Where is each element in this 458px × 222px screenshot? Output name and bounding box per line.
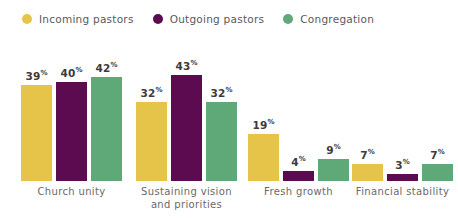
bar-rect[interactable] <box>352 164 383 181</box>
bar-slot: 7% <box>422 36 453 181</box>
bar-rect[interactable] <box>56 82 87 181</box>
bar-value-label: 3% <box>395 159 410 170</box>
bar-value-number: 42 <box>95 62 110 74</box>
bar-value-label: 9% <box>326 144 341 155</box>
chart-legend: Incoming pastors Outgoing pastors Congre… <box>22 11 374 27</box>
percent-sign: % <box>191 59 198 67</box>
legend-item-congregation[interactable]: Congregation <box>283 14 374 25</box>
category-label-line: Church unity <box>5 185 138 198</box>
category-label-line: and priorities <box>120 198 253 211</box>
bar-value-label: 42% <box>95 62 117 73</box>
bar-group-bars: 19%4%9% <box>248 36 349 181</box>
legend-dot-congregation-icon <box>283 14 293 24</box>
bar-slot: 32% <box>206 36 237 181</box>
bar-value-label: 7% <box>430 149 445 160</box>
bar-rect[interactable] <box>21 85 52 181</box>
bar-value-label: 32% <box>140 87 162 98</box>
percent-sign: % <box>268 118 275 126</box>
bar-slot: 39% <box>21 36 52 181</box>
bar-slot: 42% <box>91 36 122 181</box>
bar-rect[interactable] <box>318 159 349 181</box>
bar-value-number: 4 <box>291 156 299 168</box>
bar-rect[interactable] <box>248 134 279 181</box>
legend-dot-incoming-icon <box>22 14 32 24</box>
bar-rect[interactable] <box>422 164 453 181</box>
bar-value-number: 32 <box>210 87 225 99</box>
bar-group: 7%3%7% <box>352 36 453 181</box>
bar-value-label: 39% <box>25 70 47 81</box>
percent-sign: % <box>226 86 233 94</box>
bar-rect[interactable] <box>136 102 167 181</box>
percent-sign: % <box>156 86 163 94</box>
percent-sign: % <box>111 61 118 69</box>
bar-group-bars: 39%40%42% <box>21 36 122 181</box>
bar-value-number: 7 <box>430 149 438 161</box>
bar-value-number: 7 <box>360 149 368 161</box>
percent-sign: % <box>368 148 375 156</box>
percent-sign: % <box>76 66 83 74</box>
legend-label-outgoing: Outgoing pastors <box>170 14 265 25</box>
bar-value-number: 9 <box>326 144 334 156</box>
plot-area: 39%40%42%32%43%32%19%4%9%7%3%7% <box>0 36 458 181</box>
bar-value-label: 40% <box>60 67 82 78</box>
bar-value-label: 32% <box>210 87 232 98</box>
bar-group: 19%4%9% <box>248 36 349 181</box>
bar-value-label: 4% <box>291 156 306 167</box>
percent-sign: % <box>41 69 48 77</box>
bar-value-number: 19 <box>252 119 267 131</box>
bar-slot: 32% <box>136 36 167 181</box>
bar-slot: 9% <box>318 36 349 181</box>
percent-sign: % <box>334 143 341 151</box>
category-axis-labels: Church unitySustaining visionand priorit… <box>0 185 458 222</box>
bar-value-label: 19% <box>252 119 274 130</box>
legend-label-incoming: Incoming pastors <box>39 14 134 25</box>
category-label-line: Financial stability <box>336 185 458 198</box>
bar-group: 39%40%42% <box>21 36 122 181</box>
category-label: Financial stability <box>336 185 458 198</box>
legend-dot-outgoing-icon <box>153 14 163 24</box>
percent-sign: % <box>438 148 445 156</box>
bar-value-number: 43 <box>175 60 190 72</box>
bar-rect[interactable] <box>91 77 122 181</box>
bar-slot: 3% <box>387 36 418 181</box>
bar-slot: 4% <box>283 36 314 181</box>
bar-rect[interactable] <box>387 174 418 181</box>
bar-group-bars: 32%43%32% <box>136 36 237 181</box>
bar-rect[interactable] <box>171 75 202 181</box>
legend-label-congregation: Congregation <box>300 14 374 25</box>
bar-slot: 19% <box>248 36 279 181</box>
bar-group-bars: 7%3%7% <box>352 36 453 181</box>
bar-group: 32%43%32% <box>136 36 237 181</box>
bar-value-label: 43% <box>175 60 197 71</box>
bar-value-number: 40 <box>60 67 75 79</box>
bar-slot: 7% <box>352 36 383 181</box>
percent-sign: % <box>403 158 410 166</box>
bar-value-number: 39 <box>25 70 40 82</box>
grouped-bar-chart: Incoming pastors Outgoing pastors Congre… <box>0 0 458 222</box>
bar-value-number: 32 <box>140 87 155 99</box>
legend-item-incoming-pastors[interactable]: Incoming pastors <box>22 14 134 25</box>
legend-item-outgoing-pastors[interactable]: Outgoing pastors <box>153 14 265 25</box>
bar-rect[interactable] <box>206 102 237 181</box>
bar-slot: 40% <box>56 36 87 181</box>
category-label: Church unity <box>5 185 138 198</box>
bar-value-label: 7% <box>360 149 375 160</box>
percent-sign: % <box>299 155 306 163</box>
bar-slot: 43% <box>171 36 202 181</box>
bar-value-number: 3 <box>395 159 403 171</box>
bar-rect[interactable] <box>283 171 314 181</box>
